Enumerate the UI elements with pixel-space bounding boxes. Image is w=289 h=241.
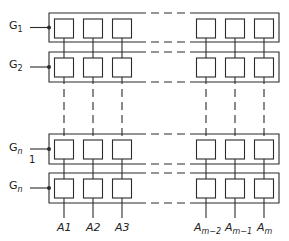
memory-cell	[197, 140, 216, 159]
row-label-gn-1-note: 1	[29, 154, 35, 165]
row-label-g1: G1	[9, 20, 23, 34]
col-label-a2: A2	[86, 222, 101, 233]
memory-cell	[84, 58, 103, 77]
memory-cell	[55, 19, 74, 38]
memory-cell	[84, 140, 103, 159]
memory-cell	[226, 19, 245, 38]
col-label-am-2: Am−2	[194, 222, 221, 236]
row-label-gn-1: Gn	[9, 142, 23, 156]
memory-cell	[255, 179, 274, 198]
memory-cell	[255, 19, 274, 38]
memory-cell	[55, 140, 74, 159]
memory-cell	[226, 179, 245, 198]
memory-cell	[113, 140, 132, 159]
diagram-svg	[0, 0, 289, 241]
junction-dot	[47, 186, 51, 190]
memory-cell	[84, 19, 103, 38]
memory-cell	[113, 179, 132, 198]
memory-cell	[84, 179, 103, 198]
col-label-am: Am	[257, 222, 272, 236]
junction-dot	[47, 65, 51, 69]
junction-dot	[47, 26, 51, 30]
row-label-gn: Gn	[9, 180, 23, 194]
col-label-a1: A1	[57, 222, 72, 233]
memory-cell	[113, 58, 132, 77]
memory-cell	[226, 58, 245, 77]
memory-cell	[55, 58, 74, 77]
memory-cell	[197, 179, 216, 198]
memory-cell	[226, 140, 245, 159]
row-label-g2: G2	[9, 59, 23, 73]
cell-array-diagram: G1 G2 Gn 1 Gn A1 A2 A3 Am−2 Am−1 Am	[0, 0, 289, 241]
memory-cell	[197, 58, 216, 77]
col-label-am-1: Am−1	[225, 222, 252, 236]
memory-cell	[55, 179, 74, 198]
col-label-a3: A3	[115, 222, 130, 233]
memory-cell	[255, 58, 274, 77]
memory-cell	[255, 140, 274, 159]
junction-dot	[47, 147, 51, 151]
memory-cell	[197, 19, 216, 38]
memory-cell	[113, 19, 132, 38]
